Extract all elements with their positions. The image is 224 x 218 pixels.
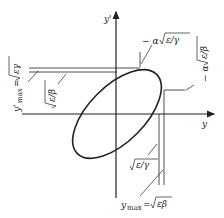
x-axis-label: y bbox=[201, 119, 208, 129]
annotation-sqrt-eps-beta: ε/β bbox=[45, 80, 57, 108]
svg-text:=: = bbox=[143, 200, 151, 210]
leader-top bbox=[141, 45, 152, 64]
svg-text:− α: − α bbox=[142, 36, 158, 46]
y-axis-label: y' bbox=[103, 14, 112, 24]
svg-text:max: max bbox=[16, 88, 24, 103]
leader-ymaxprime bbox=[28, 71, 38, 82]
annotation-ymax-prime: y' max = εγ bbox=[9, 56, 24, 113]
annotation-ymax: y max = εβ bbox=[120, 197, 172, 212]
phase-space-diagram: y y' − α ε/γ − α ε/β y' max = εγ ε/β ε/γ… bbox=[0, 0, 224, 218]
svg-text:ε/β: ε/β bbox=[199, 46, 209, 59]
annotation-top-tangent: − α ε/γ bbox=[142, 33, 190, 46]
svg-text:ε/γ: ε/γ bbox=[166, 35, 180, 45]
annotation-right-tangent: − α ε/β bbox=[197, 36, 210, 82]
svg-text:− α: − α bbox=[200, 66, 210, 82]
leader-sqrt-eps-beta bbox=[58, 74, 66, 84]
svg-text:y': y' bbox=[12, 104, 22, 113]
svg-text:εγ: εγ bbox=[11, 63, 21, 74]
leader-right bbox=[186, 85, 194, 90]
svg-text:max: max bbox=[127, 204, 142, 212]
leader-sqrt-eps-gamma bbox=[148, 144, 157, 155]
svg-text:ε/β: ε/β bbox=[47, 89, 57, 102]
svg-text:ε/γ: ε/γ bbox=[136, 160, 150, 170]
annotation-sqrt-eps-gamma: ε/γ bbox=[130, 159, 158, 170]
svg-text:εβ: εβ bbox=[157, 199, 167, 209]
leader-ymax bbox=[140, 170, 163, 196]
svg-text:=: = bbox=[12, 79, 22, 87]
svg-text:y: y bbox=[120, 200, 127, 210]
